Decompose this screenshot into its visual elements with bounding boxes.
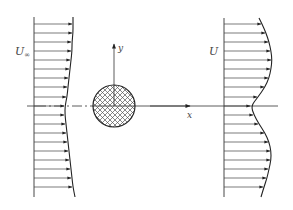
downstream-velocity-label: U — [209, 45, 219, 58]
y-axis-label: y — [117, 43, 124, 53]
downstream-velocity-profile — [224, 18, 272, 197]
upstream-velocity-profile — [34, 17, 75, 197]
velocity-envelope-curve — [65, 17, 75, 197]
velocity-envelope-curve — [252, 18, 272, 197]
upstream-velocity-label: U∞ — [15, 45, 30, 59]
x-axis-label: x — [187, 110, 192, 120]
flow-diagram: U∞ U x y — [0, 0, 293, 210]
